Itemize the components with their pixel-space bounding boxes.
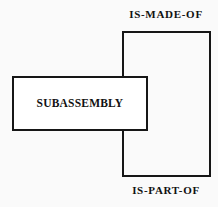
entity-box-label: SUBASSEMBLY [37, 98, 124, 110]
diagram-canvas: IS-MADE-OF SUBASSEMBLY IS-PART-OF [0, 0, 218, 207]
entity-box-subassembly: SUBASSEMBLY [12, 76, 148, 131]
relation-label-bottom: IS-PART-OF [111, 185, 218, 196]
relation-label-top: IS-MADE-OF [111, 9, 218, 20]
